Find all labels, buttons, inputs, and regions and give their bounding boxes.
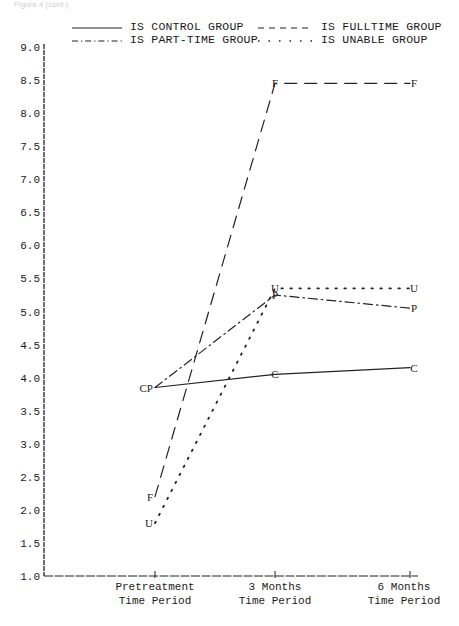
line-chart: 1.01.52.02.53.03.54.04.55.05.56.06.57.07…: [0, 0, 459, 626]
axes: 1.01.52.02.53.03.54.04.55.05.56.06.57.07…: [20, 42, 440, 607]
y-tick-label: 5.5: [20, 273, 40, 285]
y-tick-label: 8.5: [20, 75, 40, 87]
x-tick-label: Time Period: [368, 595, 441, 607]
y-tick-label: 6.5: [20, 207, 40, 219]
point-marker: P: [411, 302, 417, 314]
point-marker: C: [271, 368, 278, 380]
point-marker: U: [145, 517, 153, 529]
point-marker: U: [271, 282, 279, 294]
y-tick-label: 4.5: [20, 340, 40, 352]
series-line-c: [155, 368, 410, 388]
y-tick-label: 3.5: [20, 406, 40, 418]
series-line-u: [155, 288, 410, 523]
x-tick-label: Time Period: [119, 595, 192, 607]
series-lines: [155, 83, 410, 523]
x-tick-label: 3 Months: [249, 581, 302, 593]
y-tick-label: 2.5: [20, 472, 40, 484]
y-tick-label: 8.0: [20, 108, 40, 120]
point-marker: F: [147, 491, 153, 503]
y-tick-label: 9.0: [20, 42, 40, 54]
point-marker: CP: [140, 382, 153, 394]
y-tick-label: 2.0: [20, 505, 40, 517]
y-tick-label: 6.0: [20, 240, 40, 252]
x-tick-label: Time Period: [239, 595, 312, 607]
y-tick-label: 7.5: [20, 141, 40, 153]
point-marker: C: [410, 362, 417, 374]
y-tick-label: 4.0: [20, 373, 40, 385]
x-tick-label: 6 Months: [378, 581, 431, 593]
point-marker: F: [272, 77, 278, 89]
point-marker: F: [411, 77, 417, 89]
series-line-f: [155, 83, 410, 496]
y-tick-label: 5.0: [20, 307, 40, 319]
point-markers: CPFUCCFFPPUU: [140, 77, 418, 529]
y-tick-label: 1.5: [20, 538, 40, 550]
y-tick-label: 1.0: [20, 571, 40, 583]
y-tick-label: 3.0: [20, 439, 40, 451]
point-marker: U: [410, 282, 418, 294]
x-tick-label: Pretreatment: [115, 581, 194, 593]
y-tick-label: 7.0: [20, 174, 40, 186]
